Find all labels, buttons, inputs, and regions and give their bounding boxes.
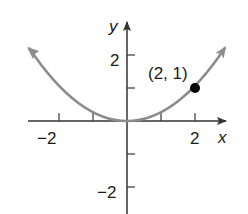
point-2-1 <box>190 83 200 93</box>
point-label: (2, 1) <box>148 64 188 83</box>
y-tick-label-2: 2 <box>110 51 119 70</box>
x-tick-label-2: 2 <box>190 129 199 148</box>
y-axis-label: y <box>108 17 119 36</box>
parabola-graph: x y −2 2 2 −2 (2, 1) <box>0 0 248 214</box>
y-tick-label-neg2: −2 <box>97 183 116 202</box>
curve-arrow-left-icon <box>27 47 39 59</box>
x-tick-label-neg2: −2 <box>37 129 56 148</box>
x-axis-label: x <box>217 128 227 147</box>
